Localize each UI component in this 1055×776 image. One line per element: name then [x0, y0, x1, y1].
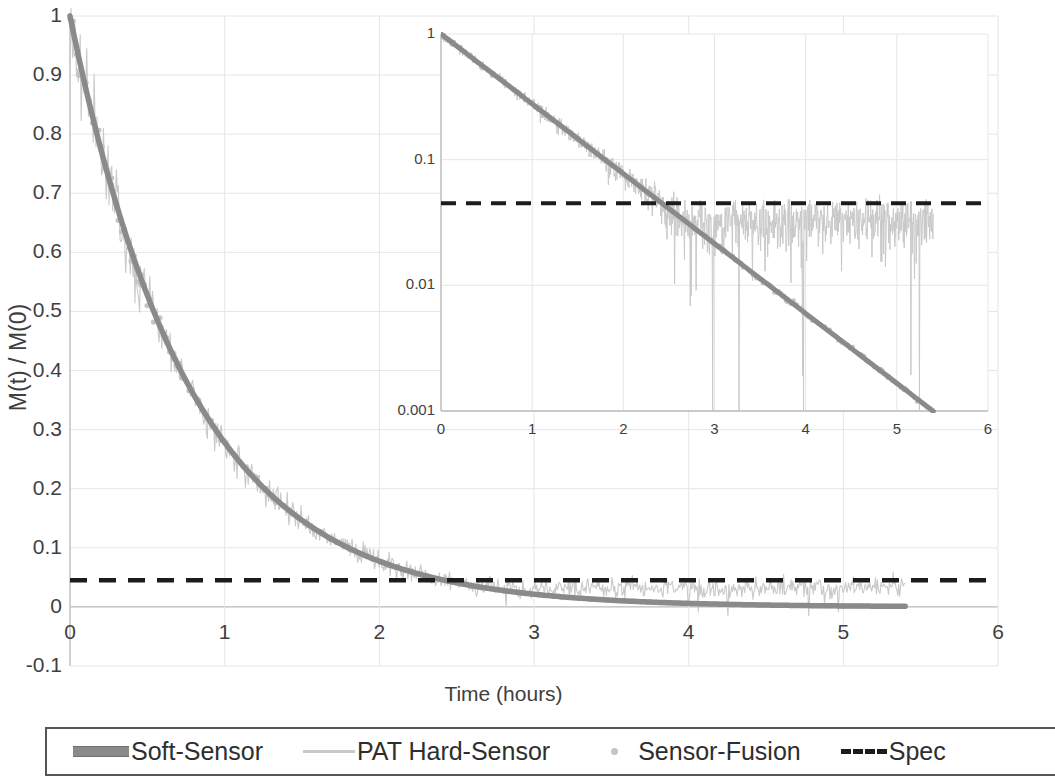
inset-y-tick-label: 1 [377, 25, 435, 40]
inset-x-tick-label: 0 [426, 421, 456, 436]
inset-chart: 10.10.010.001 0123456 [388, 6, 996, 446]
y-tick-label: 0.4 [6, 359, 62, 380]
y-tick-label: 0.5 [6, 299, 62, 320]
y-tick-label: 0.3 [6, 418, 62, 439]
legend-dot [611, 748, 618, 755]
x-tick-label: 0 [50, 621, 90, 642]
y-tick-label: 1 [6, 4, 62, 25]
legend-label: Spec [889, 737, 946, 766]
legend-label: Sensor-Fusion [638, 737, 801, 766]
x-tick-label: 3 [514, 621, 554, 642]
legend-label: PAT Hard-Sensor [357, 737, 550, 766]
inset-x-tick-label: 6 [973, 421, 1003, 436]
y-tick-label: 0.7 [6, 181, 62, 202]
inset-x-tick-label: 2 [608, 421, 638, 436]
legend-item[interactable]: Soft-Sensor [73, 737, 263, 766]
y-tick-label: -0.1 [6, 654, 62, 675]
x-tick-label: 1 [205, 621, 245, 642]
legend-item[interactable]: PAT Hard-Sensor [303, 737, 550, 766]
inset-x-tick-label: 5 [882, 421, 912, 436]
x-tick-label: 4 [669, 621, 709, 642]
inset-x-tick-label: 1 [517, 421, 547, 436]
inset-y-tick-label: 0.001 [377, 402, 435, 417]
inset-y-tick-label: 0.1 [377, 151, 435, 166]
thin-line-key [303, 750, 355, 753]
y-tick-label: 0.8 [6, 122, 62, 143]
dashed-line-key [841, 749, 887, 754]
x-axis-title: Time (hours) [0, 682, 1007, 706]
y-tick-label: 0.2 [6, 477, 62, 498]
x-tick-label: 5 [823, 621, 863, 642]
thick-line-key [73, 746, 129, 757]
inset-y-tick-label: 0.01 [377, 276, 435, 291]
x-tick-label: 6 [978, 621, 1018, 642]
legend-label: Soft-Sensor [131, 737, 263, 766]
x-tick-label: 2 [359, 621, 399, 642]
y-tick-label: 0.6 [6, 240, 62, 261]
dot-marker-key [590, 748, 638, 755]
y-tick-label: 0 [6, 595, 62, 616]
inset-plot-svg [388, 6, 996, 446]
legend-item[interactable]: Spec [841, 737, 946, 766]
y-tick-label: 0.9 [6, 63, 62, 84]
legend-item[interactable]: Sensor-Fusion [590, 737, 801, 766]
chart-legend: Soft-SensorPAT Hard-SensorSensor-FusionS… [45, 727, 1055, 776]
inset-x-tick-label: 4 [791, 421, 821, 436]
inset-x-tick-label: 3 [700, 421, 730, 436]
y-tick-label: 0.1 [6, 536, 62, 557]
y-axis-tick-labels: -0.100.10.20.30.40.50.60.70.80.91 [0, 0, 62, 720]
